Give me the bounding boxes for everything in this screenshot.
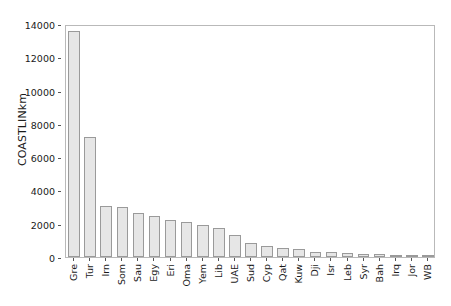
- x-axis-tick: Sud: [242, 258, 258, 306]
- bar: [342, 253, 354, 257]
- x-axis-tick-label: Yem: [196, 264, 207, 284]
- x-axis-ticks: GreTurIrnSomSauEgyEriOmaYemLibUAESudCypQ…: [65, 258, 435, 306]
- x-axis-tick: WB: [419, 258, 435, 306]
- x-axis-tick-label: UAE: [228, 264, 239, 283]
- bar: [84, 137, 96, 257]
- bar: [197, 225, 209, 257]
- x-axis-tick-mark: [330, 258, 331, 261]
- y-axis-tick-label: 12000: [25, 53, 55, 64]
- bar: [358, 254, 370, 257]
- bar: [100, 206, 112, 257]
- y-axis-tick-label: 2000: [31, 219, 55, 230]
- bar: [165, 220, 177, 257]
- x-axis-tick: Gre: [65, 258, 81, 306]
- x-axis-tick: Cyp: [258, 258, 274, 306]
- y-axis-tick-mark: [58, 191, 61, 192]
- bar: [406, 255, 418, 257]
- x-axis-tick-label: Tur: [84, 264, 95, 278]
- x-axis-tick-mark: [234, 258, 235, 261]
- bar: [374, 254, 386, 257]
- x-axis-tick-label: Irq: [389, 264, 400, 277]
- bar: [390, 255, 402, 257]
- x-axis-tick: Irn: [97, 258, 113, 306]
- x-axis-tick-mark: [121, 258, 122, 261]
- x-axis-tick: Syr: [355, 258, 371, 306]
- bar: [326, 252, 338, 257]
- x-axis-tick: Egy: [145, 258, 161, 306]
- x-axis-tick-mark: [411, 258, 412, 261]
- plot-area: [65, 25, 435, 258]
- bar: [117, 207, 129, 257]
- x-axis-tick-mark: [153, 258, 154, 261]
- x-axis-tick: Tur: [81, 258, 97, 306]
- x-axis-tick-label: Irn: [100, 264, 111, 277]
- x-axis-tick-mark: [202, 258, 203, 261]
- y-axis-tick-mark: [58, 25, 61, 26]
- x-axis-tick: Dji: [306, 258, 322, 306]
- bar: [422, 255, 434, 257]
- x-axis-tick: Som: [113, 258, 129, 306]
- y-axis-tick-label: 14000: [25, 20, 55, 31]
- x-axis-tick-label: Oma: [180, 264, 191, 287]
- x-axis-tick-label: Eri: [164, 264, 175, 277]
- x-axis-tick: Bah: [371, 258, 387, 306]
- bar-chart-figure: COASTLINkm 02000400060008000100001200014…: [0, 0, 451, 306]
- bar: [229, 235, 241, 257]
- x-axis-tick-mark: [427, 258, 428, 261]
- x-axis-tick-mark: [266, 258, 267, 261]
- x-axis-tick: UAE: [226, 258, 242, 306]
- x-axis-tick-mark: [282, 258, 283, 261]
- x-axis-tick-mark: [170, 258, 171, 261]
- x-axis-tick-mark: [379, 258, 380, 261]
- x-axis-tick-mark: [250, 258, 251, 261]
- x-axis-tick-label: WB: [421, 264, 432, 280]
- x-axis-tick-label: Som: [116, 264, 127, 285]
- bar-series: [66, 26, 434, 257]
- x-axis-tick: Yem: [194, 258, 210, 306]
- y-axis-tick-mark: [58, 258, 61, 259]
- x-axis-tick-label: Syr: [357, 264, 368, 280]
- x-axis-tick: Irq: [387, 258, 403, 306]
- y-axis-tick-label: 6000: [31, 153, 55, 164]
- y-axis-tick-label: 4000: [31, 186, 55, 197]
- x-axis-tick-label: Dji: [309, 264, 320, 277]
- x-axis-tick: Eri: [162, 258, 178, 306]
- x-axis-tick-label: Sud: [244, 264, 255, 282]
- y-axis-tick-label: 10000: [25, 86, 55, 97]
- y-axis-tick-label: 0: [49, 253, 55, 264]
- x-axis-tick-mark: [314, 258, 315, 261]
- x-axis-tick-mark: [363, 258, 364, 261]
- bar: [181, 222, 193, 257]
- bar: [293, 249, 305, 257]
- x-axis-tick: Qat: [274, 258, 290, 306]
- x-axis-tick: Kuw: [290, 258, 306, 306]
- x-axis-tick-label: Leb: [341, 264, 352, 281]
- x-axis-tick: Oma: [178, 258, 194, 306]
- x-axis-tick: Jor: [403, 258, 419, 306]
- x-axis-tick-mark: [395, 258, 396, 261]
- bar: [261, 246, 273, 257]
- x-axis-tick: Lib: [210, 258, 226, 306]
- bar: [310, 252, 322, 257]
- x-axis-tick: Leb: [338, 258, 354, 306]
- x-axis-tick-label: Cyp: [261, 264, 272, 282]
- x-axis-tick-label: Kuw: [293, 264, 304, 284]
- x-axis-tick: Sau: [129, 258, 145, 306]
- y-axis-tick-label: 8000: [31, 119, 55, 130]
- y-axis-tick-mark: [58, 225, 61, 226]
- x-axis-tick-mark: [105, 258, 106, 261]
- x-axis-tick-mark: [73, 258, 74, 261]
- x-axis-tick: Isr: [322, 258, 338, 306]
- x-axis-tick-label: Egy: [148, 264, 159, 282]
- x-axis-tick-mark: [137, 258, 138, 261]
- x-axis-tick-label: Lib: [212, 264, 223, 278]
- x-axis-tick-label: Qat: [277, 264, 288, 281]
- x-axis-tick-mark: [347, 258, 348, 261]
- x-axis-tick-label: Gre: [68, 264, 79, 281]
- x-axis-tick-label: Bah: [373, 264, 384, 282]
- x-axis-tick-label: Isr: [325, 264, 336, 276]
- y-axis-ticks: 02000400060008000100001200014000: [28, 0, 61, 306]
- x-axis-tick-mark: [298, 258, 299, 261]
- y-axis-tick-mark: [58, 125, 61, 126]
- x-axis-tick-mark: [218, 258, 219, 261]
